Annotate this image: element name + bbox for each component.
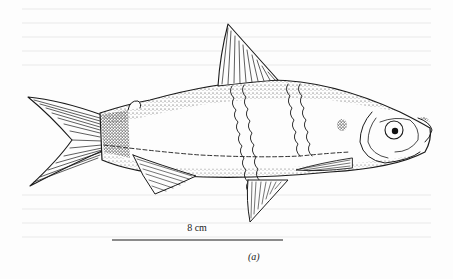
anal-fin — [247, 180, 288, 222]
dorsal-fin — [218, 24, 278, 86]
fish-drawing — [0, 0, 453, 279]
panel-label: (a) — [248, 251, 260, 262]
caudal-fin — [28, 97, 104, 186]
fish-figure: 8 cm (a) — [0, 0, 453, 279]
scale-bar-label: 8 cm — [172, 222, 222, 233]
